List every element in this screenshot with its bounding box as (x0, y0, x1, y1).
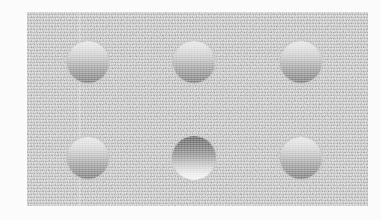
disc-grain-texture (67, 41, 109, 83)
disc-edge-blend (278, 135, 324, 181)
disc-edge-blend (171, 39, 217, 85)
disc-edge-blend (278, 39, 324, 85)
shaded-disc-bump (280, 41, 322, 83)
shaded-disc-dimple (172, 136, 216, 180)
disc-edge-blend (65, 135, 111, 181)
disc-edge-blend (65, 39, 111, 85)
disc-edge-blend (170, 134, 218, 182)
shaded-disc-bump (67, 137, 109, 179)
shaded-disc-bump (280, 137, 322, 179)
shaded-disc-bump (173, 41, 215, 83)
disc-grain-texture (280, 41, 322, 83)
disc-grain-texture (280, 137, 322, 179)
disc-grain-texture (172, 136, 216, 180)
disc-grain-texture (173, 41, 215, 83)
stimulus-panel (27, 12, 368, 206)
stimulus-figure (0, 0, 381, 220)
shaded-disc-bump (67, 41, 109, 83)
disc-grain-texture (67, 137, 109, 179)
